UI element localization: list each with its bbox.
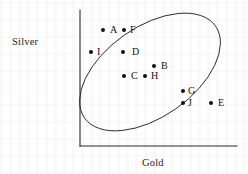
point-marker-j [181, 101, 185, 105]
plot-canvas [0, 0, 248, 174]
cluster-boundary-ellipse [59, 0, 242, 155]
point-label-d: D [132, 47, 139, 57]
point-label-e: E [218, 98, 224, 108]
point-marker-h [143, 74, 147, 78]
scatter-plot-figure: Silver Gold AFIDBCHGJE [0, 0, 248, 174]
point-marker-i [89, 50, 93, 54]
cluster-boundary-group [59, 0, 242, 155]
point-marker-g [181, 89, 185, 93]
point-label-i: I [97, 47, 100, 57]
point-label-c: C [131, 71, 138, 81]
point-label-h: H [151, 71, 158, 81]
point-label-a: A [110, 25, 117, 35]
point-label-j: J [188, 98, 192, 108]
point-label-g: G [188, 86, 195, 96]
point-marker-b [152, 64, 156, 68]
point-marker-a [101, 28, 105, 32]
point-marker-e [209, 101, 213, 105]
x-axis-label: Gold [142, 157, 164, 168]
point-label-b: B [161, 61, 168, 71]
point-marker-c [122, 74, 126, 78]
y-axis-label: Silver [12, 36, 38, 47]
point-marker-f [122, 28, 126, 32]
point-label-f: F [130, 25, 136, 35]
point-marker-d [121, 50, 125, 54]
